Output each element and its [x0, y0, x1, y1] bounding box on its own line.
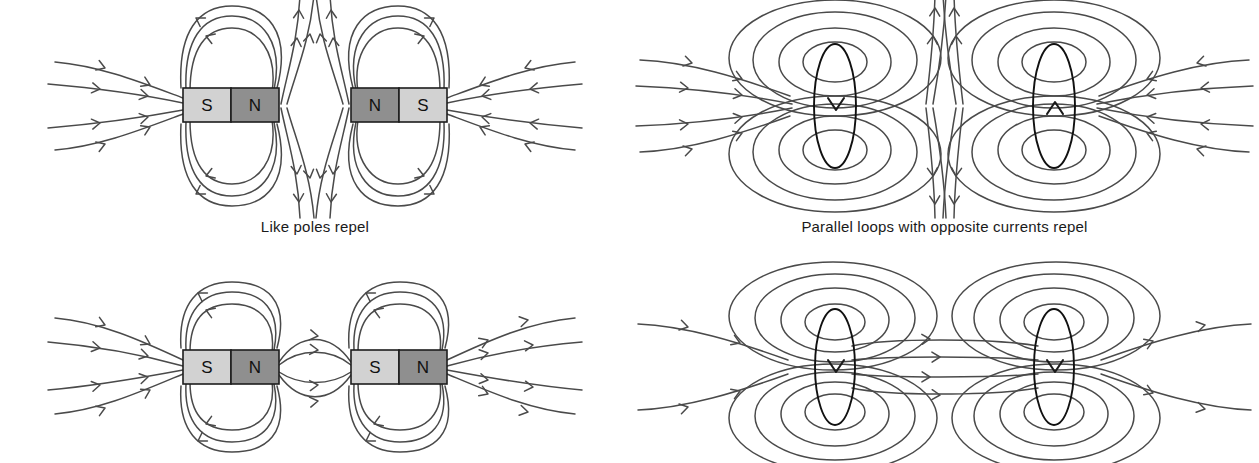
right-magnet-north-label: N [369, 96, 381, 115]
field-diagram-loops-attract [630, 270, 1259, 463]
caption-parallel-loops-repel: Parallel loops with opposite currents re… [630, 218, 1259, 235]
left-current-loop[interactable] [815, 309, 855, 425]
left-magnet[interactable]: S N [183, 350, 279, 384]
left-magnet-south-label: S [201, 358, 212, 377]
caption-like-poles-repel: Like poles repel [0, 218, 630, 235]
left-magnet[interactable]: S N [183, 88, 279, 122]
right-magnet-south-label: S [369, 358, 380, 377]
attraction-connecting-field-lines [279, 330, 351, 407]
panel-bottom-left-magnets-attract: S N S N [0, 270, 630, 463]
panel-top-right-loops-repel: Parallel loops with opposite currents re… [630, 0, 1259, 250]
panel-bottom-right-loops-attract [630, 270, 1259, 463]
right-loop-upper-field-lines [952, 262, 1160, 370]
right-current-loop[interactable] [1033, 44, 1075, 168]
left-loop-upper-field-lines [729, 262, 937, 370]
left-magnet-south-label: S [201, 96, 212, 115]
right-current-loop[interactable] [1034, 309, 1074, 425]
right-magnet-south-label: S [417, 96, 428, 115]
right-magnet-north-label: N [417, 358, 429, 377]
left-outer-field-lines [636, 56, 792, 156]
left-magnet-north-label: N [249, 358, 261, 377]
field-diagram-bar-magnets-repel: S N N S [0, 0, 630, 210]
right-magnet[interactable]: N S [351, 88, 447, 122]
magnetism-comparison-figure: S N N S Like poles repel [0, 0, 1259, 463]
loops-attraction-connecting-field-lines [852, 334, 1038, 400]
left-current-loop[interactable] [814, 44, 856, 168]
right-outer-field-lines [1097, 56, 1253, 156]
right-outer-field-lines [1101, 320, 1251, 414]
left-magnet-north-label: N [249, 96, 261, 115]
left-outer-field-lines [638, 320, 788, 414]
field-diagram-bar-magnets-attract: S N S N [0, 270, 630, 463]
right-magnet[interactable]: S N [351, 350, 447, 384]
loops-repulsion-neutral-zone-lines [926, 0, 963, 218]
right-loop-lower-field-lines [952, 364, 1160, 463]
panel-top-left-like-poles-repel: S N N S Like poles repel [0, 0, 630, 250]
repulsion-neutral-zone-lines [281, 0, 349, 218]
left-loop-lower-field-lines [729, 364, 937, 463]
field-diagram-loops-repel [630, 0, 1259, 210]
